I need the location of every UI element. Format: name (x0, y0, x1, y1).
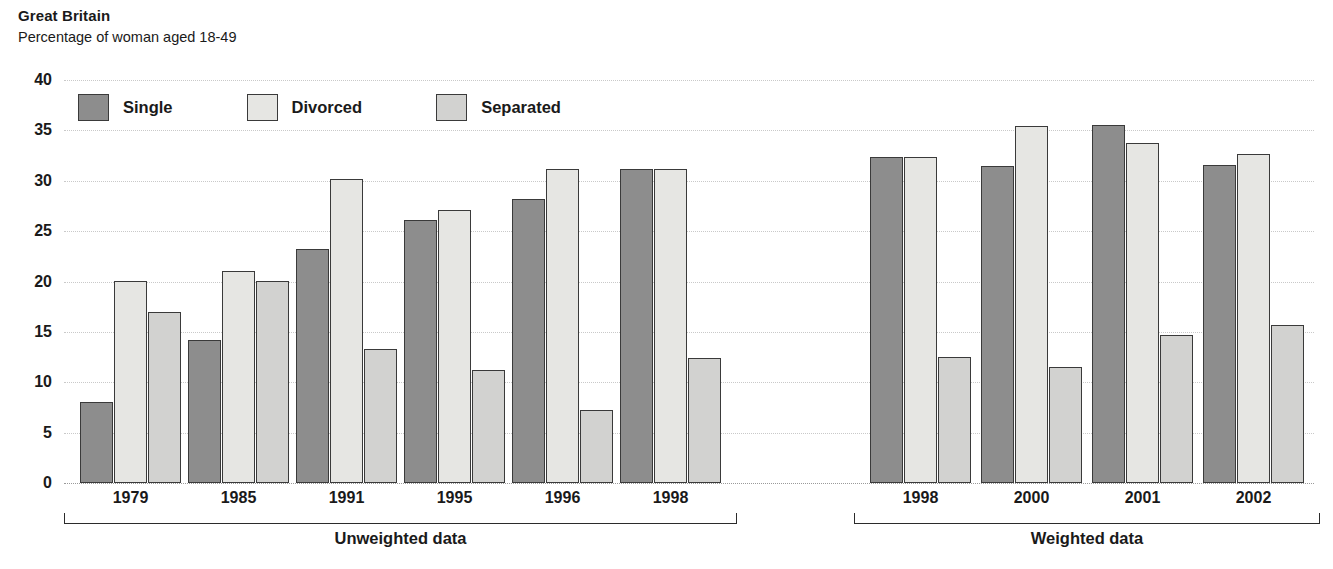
bar-group (512, 80, 613, 483)
bar-group (1092, 80, 1193, 483)
x-axis-label-weighted-2001: 2001 (1125, 489, 1161, 507)
x-axis-label-weighted-2002: 2002 (1236, 489, 1272, 507)
bar-single[interactable] (981, 166, 1014, 483)
legend-item-divorced[interactable]: Divorced (247, 94, 363, 121)
y-axis-tick-20: 20 (12, 273, 52, 291)
x-axis-label-weighted-1998: 1998 (903, 489, 939, 507)
chart-legend: SingleDivorcedSeparated (78, 94, 561, 121)
bar-separated[interactable] (938, 357, 971, 483)
legend-swatch-single (78, 94, 109, 121)
bar-divorced[interactable] (546, 169, 579, 483)
bar-separated[interactable] (1271, 325, 1304, 483)
bar-separated[interactable] (580, 410, 613, 483)
x-axis-label-unweighted-1995: 1995 (437, 489, 473, 507)
chart-header: Great Britain Percentage of woman aged 1… (18, 6, 236, 47)
bar-divorced[interactable] (330, 179, 363, 483)
x-axis-label-unweighted-1991: 1991 (329, 489, 365, 507)
y-axis-tick-5: 5 (12, 424, 52, 442)
chart-subtitle: Percentage of woman aged 18-49 (18, 27, 236, 47)
bar-separated[interactable] (364, 349, 397, 483)
bar-single[interactable] (404, 220, 437, 483)
bar-separated[interactable] (148, 312, 181, 483)
bar-divorced[interactable] (1126, 143, 1159, 483)
bar-single[interactable] (296, 249, 329, 483)
x-axis-label-unweighted-1998: 1998 (653, 489, 689, 507)
bar-group (188, 80, 289, 483)
bar-divorced[interactable] (654, 169, 687, 483)
bar-single[interactable] (1203, 165, 1236, 483)
panel-bracket-weighted (854, 513, 1320, 524)
bar-separated[interactable] (688, 358, 721, 483)
legend-item-separated[interactable]: Separated (436, 94, 561, 121)
bar-divorced[interactable] (114, 281, 147, 484)
bar-single[interactable] (80, 402, 113, 483)
y-axis-tick-35: 35 (12, 121, 52, 139)
x-axis-label-unweighted-1979: 1979 (113, 489, 149, 507)
panel-label-weighted: Weighted data (1031, 529, 1143, 548)
panel-label-unweighted: Unweighted data (334, 529, 466, 548)
y-axis-tick-10: 10 (12, 373, 52, 391)
bar-single[interactable] (620, 169, 653, 483)
axis-baseline (64, 483, 1314, 484)
y-axis-tick-25: 25 (12, 222, 52, 240)
legend-item-single[interactable]: Single (78, 94, 173, 121)
bar-single[interactable] (188, 340, 221, 483)
bar-divorced[interactable] (1015, 126, 1048, 483)
x-axis-label-weighted-2000: 2000 (1014, 489, 1050, 507)
bar-separated[interactable] (472, 370, 505, 483)
bar-group (296, 80, 397, 483)
x-axis-label-unweighted-1996: 1996 (545, 489, 581, 507)
bar-single[interactable] (512, 199, 545, 483)
bar-group (870, 80, 971, 483)
legend-label-divorced: Divorced (292, 98, 363, 117)
bar-divorced[interactable] (438, 210, 471, 483)
bar-group (1203, 80, 1304, 483)
legend-label-separated: Separated (481, 98, 561, 117)
plot-area: 0510152025303540 (64, 80, 1314, 483)
bar-group (404, 80, 505, 483)
panel-bracket-unweighted (64, 513, 737, 524)
legend-label-single: Single (123, 98, 173, 117)
bar-group (620, 80, 721, 483)
y-axis-tick-15: 15 (12, 323, 52, 341)
legend-swatch-separated (436, 94, 467, 121)
bar-group (981, 80, 1082, 483)
legend-swatch-divorced (247, 94, 278, 121)
y-axis-tick-40: 40 (12, 71, 52, 89)
bar-single[interactable] (1092, 125, 1125, 483)
bar-divorced[interactable] (904, 157, 937, 483)
bar-separated[interactable] (256, 281, 289, 484)
bar-single[interactable] (870, 157, 903, 483)
x-axis-label-unweighted-1985: 1985 (221, 489, 257, 507)
bar-separated[interactable] (1049, 367, 1082, 483)
y-axis-tick-30: 30 (12, 172, 52, 190)
bar-divorced[interactable] (1237, 154, 1270, 483)
bar-group (80, 80, 181, 483)
bar-divorced[interactable] (222, 271, 255, 483)
bar-separated[interactable] (1160, 335, 1193, 483)
y-axis-tick-0: 0 (12, 474, 52, 492)
page-title: Great Britain (18, 6, 236, 26)
